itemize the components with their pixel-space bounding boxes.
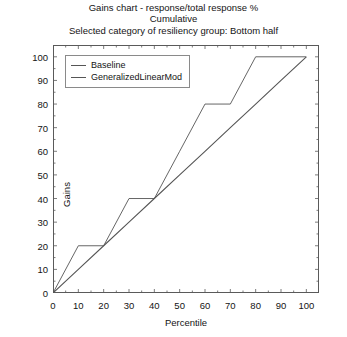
y-tick-70: 70	[37, 122, 48, 133]
y-tick-60: 60	[37, 146, 48, 157]
y-tick-40: 40	[37, 193, 48, 204]
x-tick-100: 100	[298, 300, 314, 311]
x-tick-10: 10	[73, 300, 84, 311]
legend-swatch-icon	[71, 65, 86, 66]
legend-item-baseline: Baseline	[71, 59, 182, 71]
x-tick-80: 80	[250, 300, 261, 311]
x-tick-70: 70	[225, 300, 236, 311]
x-tick-60: 60	[200, 300, 211, 311]
chart-legend: BaselineGeneralizedLinearMod	[65, 55, 190, 88]
chart-title-line-2: Cumulative	[0, 13, 347, 24]
y-tick-30: 30	[37, 217, 48, 228]
x-tick-40: 40	[149, 300, 160, 311]
x-tick-20: 20	[98, 300, 109, 311]
series-lines	[53, 57, 306, 293]
chart-title-line-3: Selected category of resiliency group: B…	[0, 25, 347, 36]
y-tick-100: 100	[32, 51, 48, 62]
legend-item-label: GeneralizedLinearMod	[91, 72, 182, 82]
y-tick-80: 80	[37, 99, 48, 110]
legend-item-generalizedlinearmod: GeneralizedLinearMod	[71, 71, 182, 83]
plot-area: 0102030405060708090100 01020304050607080…	[53, 45, 319, 293]
legend-item-label: Baseline	[91, 60, 126, 70]
chart-title-line-1: Gains chart - response/total response %	[0, 2, 347, 13]
y-tick-20: 20	[37, 240, 48, 251]
y-tick-10: 10	[37, 264, 48, 275]
y-tick-90: 90	[37, 75, 48, 86]
chart-title-block: Gains chart - response/total response % …	[0, 2, 347, 36]
legend-swatch-icon	[71, 77, 86, 78]
y-axis-title: Gains	[61, 135, 72, 255]
series-line-baseline	[53, 57, 306, 293]
y-tick-0: 0	[43, 288, 48, 299]
x-tick-30: 30	[124, 300, 135, 311]
y-tick-50: 50	[37, 169, 48, 180]
x-tick-90: 90	[276, 300, 287, 311]
x-tick-0: 0	[50, 300, 55, 311]
gains-chart-figure: Gains chart - response/total response % …	[0, 0, 347, 337]
x-axis-title: Percentile	[53, 317, 319, 328]
x-tick-50: 50	[174, 300, 185, 311]
